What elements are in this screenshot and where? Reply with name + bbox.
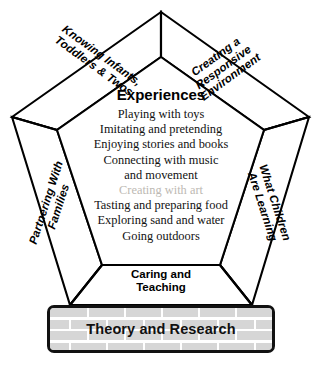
- brick-mortar-joint: [180, 341, 182, 353]
- brick-mortar-joint: [235, 306, 237, 318]
- brick-mortar-joint: [161, 306, 163, 318]
- experience-item: Tasting and preparing food: [61, 198, 261, 213]
- brick-mortar-joint: [87, 306, 89, 318]
- brick-mortar-joint: [106, 341, 108, 353]
- experience-item: Exploring sand and water: [61, 213, 261, 228]
- foundation-label: Theory and Research: [86, 321, 235, 337]
- band-label-caring-and-teaching: Caring and Teaching: [86, 268, 236, 294]
- experiences-title: Experiences: [61, 86, 261, 104]
- experience-item: Imitating and pretending: [61, 122, 261, 137]
- foundation-block: Theory and Research: [47, 305, 275, 353]
- brick-mortar-joint: [198, 306, 200, 318]
- experiences-list: Playing with toysImitating and pretendin…: [61, 107, 261, 244]
- brick-mortar-joint: [143, 341, 145, 353]
- brick-mortar-joint: [69, 341, 71, 353]
- brick-mortar-joint: [217, 341, 219, 353]
- brick-mortar-joint: [69, 318, 71, 330]
- experiences-panel: Experiences Playing with toysImitating a…: [61, 86, 261, 244]
- brick-mortar-joint: [254, 318, 256, 330]
- experience-item: Connecting with music and movement: [61, 153, 261, 183]
- experience-item: Playing with toys: [61, 107, 261, 122]
- brick-mortar-joint: [254, 341, 256, 353]
- experience-item: Enjoying stories and books: [61, 137, 261, 152]
- experience-item: Creating with art: [61, 183, 261, 198]
- experience-item: Going outdoors: [61, 229, 261, 244]
- brick-mortar-joint: [124, 306, 126, 318]
- pentagon-diagram: Knowing Infants, Toddlers & Twos Creatin…: [0, 0, 322, 365]
